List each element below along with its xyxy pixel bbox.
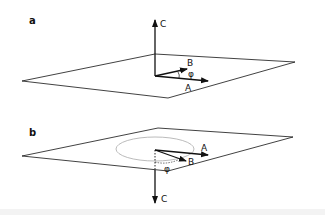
angle-phi-label-b: φ [164,164,170,174]
angle-phi-label: φ [188,69,194,79]
vector-c-label-b: C [161,194,167,204]
angle-arc-icon [178,72,179,78]
vector-a-label-b: A [201,143,208,153]
vector-diagram: a C A B φ b C A B φ [0,0,325,215]
panel-a-label: a [29,15,36,26]
vector-b-icon [155,69,187,76]
panel-a: a C A B φ [22,15,295,98]
bottom-strip [0,209,325,215]
plane-b [22,128,293,171]
vector-a-icon [155,76,208,81]
vector-a-label: A [185,83,192,93]
vector-b-label: B [187,58,193,68]
vector-b-label-b: B [188,157,194,167]
panel-b: b C A B φ [22,127,293,204]
panel-b-label: b [29,127,36,138]
vector-c-label: C [160,19,166,29]
